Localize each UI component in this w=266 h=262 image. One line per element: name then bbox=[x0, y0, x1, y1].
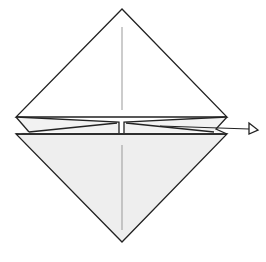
arrow-head-icon bbox=[249, 123, 258, 134]
origami-diagram bbox=[0, 0, 266, 262]
diagram-canvas bbox=[0, 0, 266, 262]
